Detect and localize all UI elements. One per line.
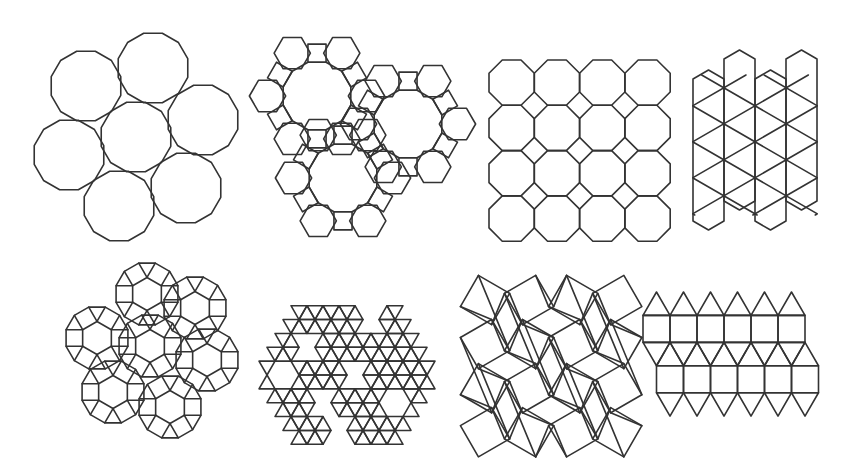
- tile-edge: [611, 413, 642, 426]
- triangle: [323, 347, 339, 361]
- tile-edge: [207, 377, 215, 391]
- tile-edge: [554, 364, 567, 395]
- triangle: [315, 430, 331, 444]
- tile-edge: [150, 363, 158, 377]
- tile-edge: [580, 382, 593, 413]
- triangle: [339, 403, 355, 417]
- triangle: [275, 347, 291, 361]
- triangle: [419, 375, 435, 389]
- tile-edge: [184, 384, 192, 398]
- triangle: [765, 342, 792, 365]
- tile-edge: [113, 409, 121, 423]
- tile-edge: [147, 311, 155, 325]
- triangle: [307, 320, 323, 334]
- tile-edge: [127, 400, 135, 414]
- octagon: [489, 105, 534, 150]
- tile-edge: [74, 315, 82, 329]
- inner-hexagon: [83, 321, 112, 354]
- tile-edge: [164, 354, 172, 368]
- triangle: [291, 403, 307, 417]
- tile-edge: [97, 307, 105, 321]
- triangle: [711, 393, 738, 416]
- tile-edge: [90, 369, 98, 383]
- triangle: [299, 389, 315, 403]
- triangle: [323, 320, 339, 334]
- square: [643, 315, 670, 342]
- octagon: [580, 105, 625, 150]
- triangle: [411, 347, 427, 361]
- square: [751, 315, 778, 342]
- triangle: [403, 389, 419, 403]
- triangle: [363, 403, 379, 417]
- triangle: [371, 389, 387, 403]
- tile-edge: [195, 277, 203, 291]
- triangle: [395, 361, 411, 375]
- triangle: [724, 292, 751, 315]
- tile-edge: [147, 415, 155, 429]
- square: [433, 133, 458, 158]
- tile-edge: [90, 400, 98, 414]
- hexagon: [300, 119, 336, 150]
- triangle: [355, 403, 371, 417]
- tile-edge: [89, 307, 97, 321]
- octagon: [489, 196, 534, 241]
- triangle: [355, 389, 371, 403]
- triangle: [347, 403, 363, 417]
- triangle: [684, 342, 711, 365]
- square: [268, 62, 293, 87]
- triangle: [315, 347, 331, 361]
- triangle: [307, 361, 323, 375]
- triangle: [331, 347, 347, 361]
- triangle: [670, 342, 697, 365]
- triangle: [331, 306, 347, 320]
- triangle: [363, 389, 379, 403]
- square: [670, 315, 697, 342]
- dodecagon: [51, 51, 121, 121]
- triangle: [291, 361, 307, 375]
- tile-edge: [164, 323, 172, 337]
- triangle: [347, 320, 363, 334]
- dodecagon: [101, 102, 171, 172]
- tile-edge: [111, 315, 119, 329]
- triangle: [323, 306, 339, 320]
- triangle: [371, 430, 387, 444]
- triangle: [379, 361, 395, 375]
- square: [368, 187, 393, 212]
- triangle: [403, 347, 419, 361]
- tiling-3-4-6-4: [66, 263, 238, 438]
- hexagon-strip: [786, 50, 817, 210]
- triangle: [291, 417, 307, 431]
- triangle: [283, 403, 299, 417]
- tile-edge: [105, 409, 113, 423]
- triangle: [331, 375, 347, 389]
- tile-edge: [162, 424, 170, 438]
- inner-hexagon: [133, 277, 162, 310]
- triangle: [299, 306, 315, 320]
- tiling-3-12-12: [34, 33, 238, 241]
- tile-edge: [221, 368, 229, 382]
- triangle: [331, 320, 347, 334]
- triangle: [347, 389, 363, 403]
- dodecagon: [118, 33, 188, 103]
- triangle: [355, 347, 371, 361]
- tiling-4-8-8: [489, 60, 670, 241]
- triangle: [419, 361, 435, 375]
- tile-edge: [184, 415, 192, 429]
- triangle: [387, 417, 403, 431]
- triangle: [403, 375, 419, 389]
- triangle: [738, 393, 765, 416]
- tile-edge: [199, 377, 207, 391]
- triangle: [355, 333, 371, 347]
- square: [778, 315, 805, 342]
- triangle: [299, 417, 315, 431]
- triangle: [395, 320, 411, 334]
- triangle: [323, 333, 339, 347]
- hexagon: [415, 151, 451, 182]
- tile-edge: [492, 382, 505, 413]
- tiling-3-3-4-3-4: [460, 275, 641, 456]
- triangle: [283, 333, 299, 347]
- tile-edge: [510, 320, 523, 351]
- triangle: [697, 292, 724, 315]
- triangle: [765, 393, 792, 416]
- tiling-4-6-12: [249, 37, 475, 236]
